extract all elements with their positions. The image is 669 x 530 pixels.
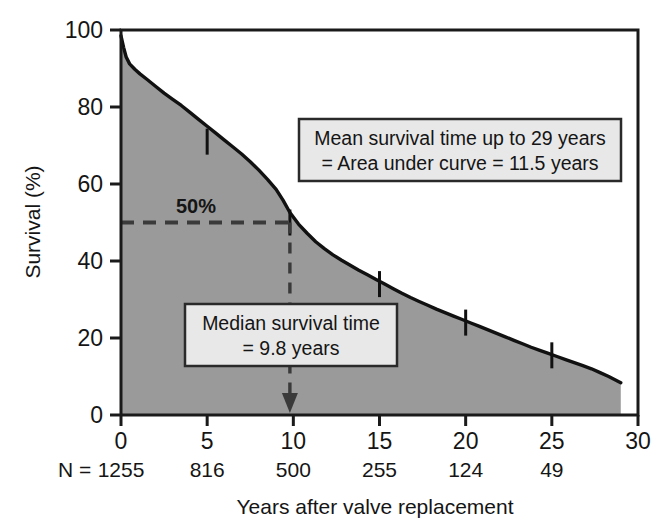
x-tick-label: 10 — [281, 428, 307, 454]
x-tick-label: 5 — [201, 428, 214, 454]
median-survival-box: Median survival time= 9.8 years — [185, 304, 397, 366]
y-tick-label: 80 — [77, 94, 103, 120]
y-axis-title: Survival (%) — [21, 165, 44, 278]
risk-table-count: 124 — [448, 458, 483, 481]
annotation-line: Median survival time — [202, 312, 380, 334]
survival-chart: 50% 020406080100 051015202530 Survival (… — [0, 0, 669, 530]
x-tick-label: 25 — [539, 428, 565, 454]
risk-table-count: 816 — [190, 458, 225, 481]
x-tick-label: 15 — [367, 428, 393, 454]
y-tick-label: 100 — [65, 17, 103, 43]
y-tick-label: 0 — [90, 402, 103, 428]
annotation-line: = 9.8 years — [242, 337, 339, 359]
risk-table-count: 1255 — [98, 458, 145, 481]
y-tick-label: 60 — [77, 171, 103, 197]
fifty-percent-label: 50% — [176, 195, 216, 217]
y-tick-label: 20 — [77, 325, 103, 351]
x-tick-label: 0 — [115, 428, 128, 454]
risk-table-row-label: N = — [58, 458, 91, 481]
annotation-line: Mean survival time up to 29 years — [314, 127, 606, 149]
x-tick-label: 20 — [453, 428, 479, 454]
x-tick-label: 30 — [625, 428, 651, 454]
mean-survival-box: Mean survival time up to 29 years= Area … — [299, 119, 621, 181]
annotation-line: = Area under curve = 11.5 years — [321, 152, 598, 174]
risk-table-count: 255 — [362, 458, 397, 481]
risk-table-count: 49 — [540, 458, 563, 481]
x-axis-title: Years after valve replacement — [236, 495, 513, 518]
risk-table-count: 500 — [276, 458, 311, 481]
y-tick-label: 40 — [77, 248, 103, 274]
